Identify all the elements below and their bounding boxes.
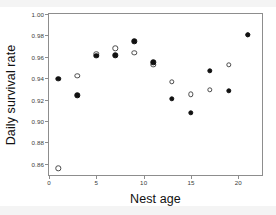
data-point-filled	[113, 53, 118, 58]
scan-artifact-top	[0, 0, 276, 7]
y-axis-tick	[45, 78, 49, 79]
y-axis-tick	[45, 100, 49, 101]
data-point-open	[169, 79, 174, 84]
x-axis-tick-label: 0	[47, 179, 51, 186]
y-axis-tick-label: 0.88	[32, 139, 44, 146]
data-point-filled	[56, 76, 61, 81]
y-axis-tick-label: 0.92	[32, 96, 44, 103]
y-axis-tick-label: 0.98	[32, 32, 44, 39]
data-point-open	[207, 87, 212, 92]
y-axis-tick-label: 1.00	[32, 11, 44, 18]
plot-frame: 0.860.880.900.920.940.960.981.0005101520	[48, 13, 263, 176]
scatter-plot-figure: Daily survival rate 0.860.880.900.920.94…	[0, 0, 276, 215]
y-axis-tick-label: 0.94	[32, 75, 44, 82]
y-axis-tick-label: 0.96	[32, 53, 44, 60]
data-point-filled	[188, 110, 193, 115]
scan-artifact-bottom	[0, 206, 276, 215]
data-point-open	[56, 166, 61, 171]
x-axis-tick-label: 15	[187, 179, 194, 186]
data-point-filled	[169, 96, 174, 101]
y-axis-tick	[45, 14, 49, 15]
data-point-open	[75, 73, 80, 78]
x-axis-tick-label: 20	[235, 179, 242, 186]
y-axis-tick	[45, 57, 49, 58]
y-axis-tick	[45, 35, 49, 36]
y-axis-tick-label: 0.90	[32, 117, 44, 124]
y-axis-tick	[45, 164, 49, 165]
plot-area	[49, 14, 262, 175]
data-point-filled	[131, 39, 136, 44]
data-point-open	[131, 50, 136, 55]
y-axis-tick	[45, 121, 49, 122]
data-point-open	[226, 62, 231, 67]
y-axis-title: Daily survival rate	[4, 13, 18, 176]
data-point-filled	[245, 32, 250, 37]
y-axis-tick-label: 0.86	[32, 160, 44, 167]
data-point-open	[188, 92, 193, 97]
y-axis-title-text: Daily survival rate	[4, 44, 18, 145]
x-axis-tick-label: 5	[95, 179, 99, 186]
data-point-filled	[207, 68, 212, 73]
y-axis-tick	[45, 142, 49, 143]
data-point-filled	[94, 53, 99, 58]
x-axis-tick-label: 10	[140, 179, 147, 186]
x-axis-title: Nest age	[48, 192, 263, 206]
data-point-filled	[226, 88, 231, 93]
data-point-open	[113, 46, 118, 51]
data-point-filled	[75, 93, 80, 98]
